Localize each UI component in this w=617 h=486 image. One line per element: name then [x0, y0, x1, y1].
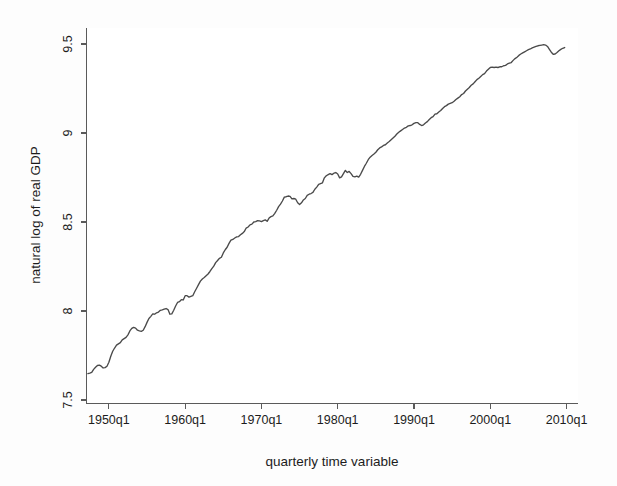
x-tick-label: 1960q1	[164, 413, 206, 427]
y-tick-label: 7.5	[61, 391, 75, 408]
x-tick-label: 1980q1	[317, 413, 359, 427]
y-tick-label: 9	[61, 129, 75, 136]
x-tick-label: 1950q1	[88, 413, 130, 427]
chart-figure: 7.588.599.5 1950q11960q11970q11980q11990…	[0, 0, 617, 486]
y-tick-label: 8	[61, 307, 75, 314]
line-chart-svg: 7.588.599.5 1950q11960q11970q11980q11990…	[0, 0, 617, 486]
y-tick-label: 9.5	[61, 35, 75, 52]
y-axis-title: natural log of real GDP	[28, 146, 43, 283]
y-tick-label: 8.5	[61, 213, 75, 230]
x-tick-label: 1970q1	[241, 413, 283, 427]
x-tick-label: 2010q1	[546, 413, 588, 427]
x-axis-title: quarterly time variable	[266, 454, 399, 469]
plot-area-background	[86, 28, 578, 403]
x-tick-label: 1990q1	[393, 413, 435, 427]
x-tick-label: 2000q1	[469, 413, 511, 427]
